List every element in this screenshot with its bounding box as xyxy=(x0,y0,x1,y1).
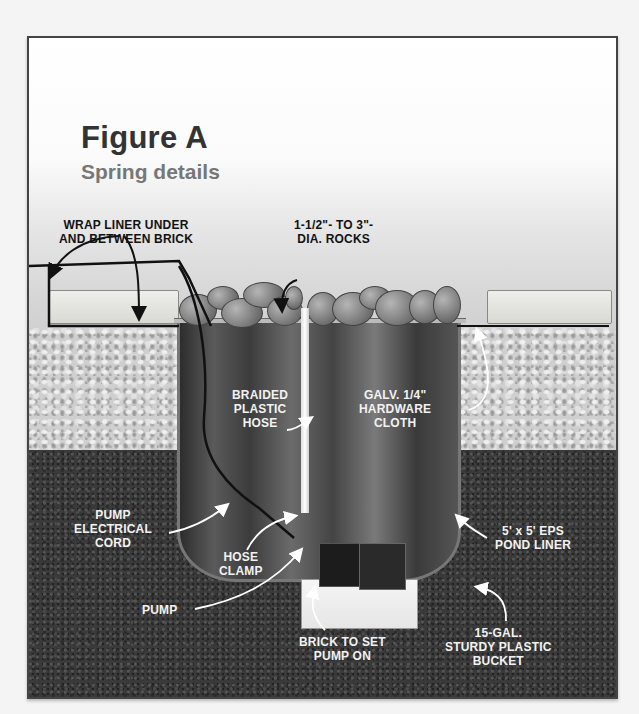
pump-motor xyxy=(359,543,406,590)
label-pond-liner: 5' x 5' EPS POND LINER xyxy=(495,524,571,552)
rock-pile xyxy=(177,282,462,326)
braided-hose xyxy=(301,308,309,513)
rock xyxy=(433,286,461,324)
cropped-caption-text xyxy=(120,0,520,5)
label-hose-clamp: HOSE CLAMP xyxy=(219,550,263,578)
rock xyxy=(285,286,303,310)
label-bucket: 15-GAL. STURDY PLASTIC BUCKET xyxy=(445,626,552,668)
edge-brick-right xyxy=(487,290,612,324)
gravel-layer-right xyxy=(459,328,618,450)
edge-brick-left xyxy=(49,290,179,324)
label-brick: BRICK TO SET PUMP ON xyxy=(299,635,386,663)
label-rocks: 1-1/2"- TO 3"- DIA. ROCKS xyxy=(294,218,373,246)
gravel-layer-left xyxy=(29,328,179,450)
figure-title: Figure A xyxy=(81,120,208,156)
label-wrap-liner: WRAP LINER UNDER AND BETWEEN BRICK xyxy=(59,218,193,246)
figure-frame: Figure A Spring details WRAP LINER UNDER… xyxy=(27,36,618,699)
label-braided-hose: BRAIDED PLASTIC HOSE xyxy=(232,388,288,430)
label-pump: PUMP xyxy=(142,603,177,617)
label-hardware-cloth: GALV. 1/4" HARDWARE CLOTH xyxy=(359,388,431,430)
figure-subtitle: Spring details xyxy=(81,160,220,184)
label-electrical-cord: PUMP ELECTRICAL CORD xyxy=(74,508,152,550)
